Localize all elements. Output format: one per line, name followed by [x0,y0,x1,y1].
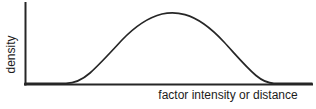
y-axis-label: density [0,0,22,109]
density-curve-path [25,13,312,83]
density-curve-figure: density factor intensity or distance [0,0,316,109]
x-axis-label: factor intensity or distance [140,88,316,102]
